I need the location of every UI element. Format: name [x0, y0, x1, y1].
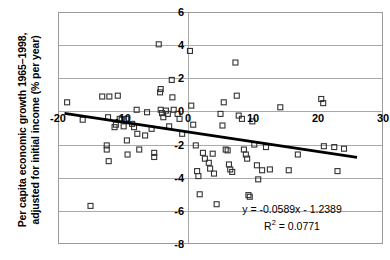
data-point-marker	[321, 144, 326, 149]
data-point-marker	[233, 60, 238, 65]
data-point-marker	[170, 95, 175, 100]
r-squared-exponent: 2	[272, 218, 276, 227]
y-axis-title-line-2: adjusted for initial income (% per year)	[29, 33, 42, 228]
data-point-marker	[295, 152, 300, 157]
data-point-marker	[278, 105, 283, 110]
y-axis-title-text: Per capita economic growth 1965–1998, ad…	[16, 33, 42, 228]
y-axis-title: Per capita economic growth 1965–1998, ad…	[0, 0, 58, 260]
data-point-marker	[220, 123, 225, 128]
data-point-marker	[286, 168, 291, 173]
data-point-marker	[226, 162, 231, 167]
data-point-marker	[121, 124, 126, 129]
data-point-marker	[156, 42, 161, 47]
data-point-marker	[247, 194, 252, 199]
data-point-marker	[210, 151, 215, 156]
data-point-marker	[267, 167, 272, 172]
data-point-marker	[221, 100, 226, 105]
x-tick-label: -10	[115, 112, 131, 124]
data-point-marker	[335, 169, 340, 174]
y-axis-title-line-1: Per capita economic growth 1965–1998,	[16, 33, 29, 228]
regression-r-squared: R2 = 0.0771	[222, 216, 362, 233]
data-point-marker	[200, 150, 205, 155]
data-point-marker	[214, 202, 219, 207]
r-squared-label: R	[264, 220, 272, 232]
y-tick-label: 4	[178, 39, 186, 51]
data-point-marker	[208, 166, 213, 171]
data-point-marker	[241, 147, 246, 152]
scatter-chart: Per capita economic growth 1965–1998, ad…	[0, 0, 390, 260]
y-tick-label: 2	[178, 72, 186, 84]
x-tick-label: 10	[247, 112, 259, 124]
data-point-marker	[125, 152, 130, 157]
data-point-marker	[88, 203, 93, 208]
data-point-marker	[256, 177, 261, 182]
data-point-marker	[254, 163, 259, 168]
x-tick-label: 0	[185, 112, 191, 124]
data-point-marker	[189, 103, 194, 108]
data-point-marker	[195, 169, 200, 174]
data-point-marker	[135, 131, 140, 136]
data-point-marker	[106, 159, 111, 164]
data-point-marker	[124, 138, 129, 143]
data-point-marker	[80, 117, 85, 122]
y-tick-label: -2	[174, 139, 186, 151]
data-point-marker	[100, 94, 105, 99]
data-point-marker	[137, 147, 142, 152]
regression-annotation: y = -0.0589x - 1.2389 R2 = 0.0771	[222, 203, 362, 233]
data-point-marker	[196, 174, 201, 179]
y-tick-label: 6	[178, 6, 186, 18]
data-point-marker	[218, 111, 223, 116]
r-squared-value: = 0.0771	[279, 220, 320, 232]
data-point-marker	[115, 93, 120, 98]
data-point-marker	[145, 110, 150, 115]
y-tick-label: -4	[174, 172, 186, 184]
data-point-marker	[197, 192, 202, 197]
data-point-marker	[342, 146, 347, 151]
y-tick-label: -6	[174, 205, 186, 217]
data-point-marker	[212, 171, 217, 176]
data-point-marker	[191, 122, 196, 127]
x-tick-label: -20	[50, 112, 66, 124]
regression-equation: y = -0.0589x - 1.2389	[222, 203, 362, 216]
data-point-marker	[65, 100, 70, 105]
data-point-marker	[143, 133, 148, 138]
data-point-marker	[246, 193, 251, 198]
data-point-marker	[234, 93, 239, 98]
y-tick-label: -8	[174, 238, 186, 250]
data-points	[65, 42, 347, 209]
data-point-marker	[236, 113, 241, 118]
data-point-marker	[239, 116, 244, 121]
x-tick-label: 30	[377, 112, 389, 124]
x-tick-label: 20	[312, 112, 324, 124]
data-point-marker	[107, 94, 112, 99]
data-point-marker	[260, 168, 265, 173]
